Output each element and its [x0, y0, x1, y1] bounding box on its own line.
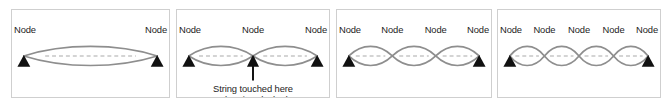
wave-envelope-lower	[24, 56, 157, 66]
node-marker-triangle-icon	[311, 55, 324, 67]
node-label: Node	[14, 26, 36, 36]
node-marker-triangle-icon	[182, 55, 195, 67]
harmonic-panel-1: NodeNode	[11, 9, 170, 98]
harmonic-panel-2: NodeNodeNodeString touched herewhen it's…	[176, 9, 330, 98]
harmonic-diagram-3: NodeNodeNodeNode	[337, 10, 491, 97]
node-label: Node	[145, 26, 167, 36]
node-marker-triangle-icon	[342, 55, 355, 67]
wave-envelope-upper	[24, 46, 157, 56]
node-marker-triangle-icon	[473, 55, 486, 67]
pluck-caption-line-1: String touched here	[213, 84, 293, 94]
node-label: Node	[603, 26, 625, 36]
harmonic-diagram-4: NodeNodeNodeNodeNode	[498, 10, 660, 97]
harmonic-diagram-1: NodeNode	[12, 10, 169, 97]
wave-envelope-upper	[510, 46, 648, 56]
wave-envelope-lower	[510, 56, 648, 66]
node-label: Node	[381, 26, 403, 36]
wave-envelope-upper	[189, 46, 317, 56]
node-label: Node	[305, 25, 327, 35]
wave-envelope-upper	[349, 46, 479, 56]
pluck-caption-line-2: when it's plucked	[217, 95, 287, 97]
node-label: Node	[636, 26, 658, 36]
node-label: Node	[339, 26, 361, 36]
node-label: Node	[467, 26, 489, 36]
panel-strip: NodeNodeNodeNodeNodeString touched herew…	[0, 0, 672, 107]
node-label: Node	[568, 26, 590, 36]
node-label: Node	[500, 26, 522, 36]
harmonic-diagram-2: NodeNodeNodeString touched herewhen it's…	[177, 10, 329, 97]
standing-wave-figure: NodeNodeNodeNodeNodeString touched herew…	[0, 0, 672, 107]
node-label: Node	[425, 26, 447, 36]
node-label: Node	[179, 25, 201, 35]
harmonic-panel-4: NodeNodeNodeNodeNode	[497, 9, 661, 98]
wave-envelope-lower	[349, 56, 479, 66]
node-label: Node	[242, 25, 264, 35]
node-label: Node	[533, 26, 555, 36]
harmonic-panel-3: NodeNodeNodeNode	[336, 9, 492, 98]
